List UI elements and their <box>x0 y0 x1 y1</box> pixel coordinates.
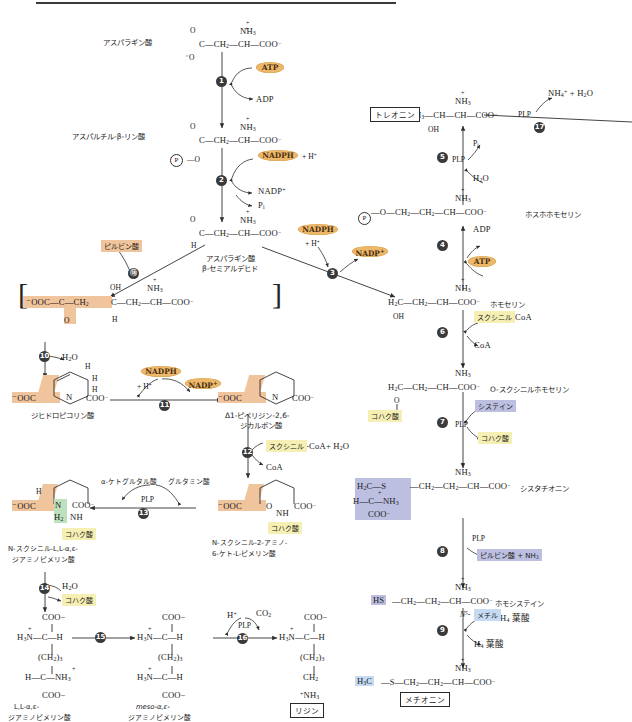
step-7[interactable]: 7 <box>437 417 448 428</box>
cofactor-adp-4: ADP <box>473 224 491 234</box>
label-osuccinylhomoserine: O-スクシニルホモセリン <box>490 383 569 394</box>
cofactor-nadph-11: NADPH <box>141 366 181 377</box>
homoserine-charge: + <box>461 277 464 283</box>
chip-pyruvate-nh3-8: ピルビン酸 + NH3 <box>477 549 542 561</box>
cystathionine-backbone: —CH2—CH2—CH—COO− <box>410 481 511 491</box>
mesodap-coo-bottom: COO− <box>162 690 186 700</box>
homoserine-oh: OH <box>393 312 404 321</box>
chip-succinate-osucc: コハク酸 <box>368 410 402 422</box>
homoserine-backbone: H2C—CH2—CH—COO− <box>388 297 480 307</box>
step-13[interactable]: 13 <box>138 508 149 519</box>
asppho-o-top: O <box>190 122 195 131</box>
label-aspartyl-phosphate: アスパルチル-β-リン酸 <box>72 130 145 141</box>
label-nsk-2: 6-ケト-L-ピメリン酸 <box>212 548 276 558</box>
cofactor-thf-9b: H4 葉酸 <box>474 637 504 649</box>
step-8[interactable]: 8 <box>437 546 448 557</box>
bracket-charge: + <box>153 277 156 283</box>
step-6[interactable]: 6 <box>437 327 448 338</box>
lldap-coo-bottom: COO− <box>42 690 66 700</box>
bracket-right-frag: C—CH2—CH—COO− <box>111 297 193 307</box>
chip-cysteine-7: システイン <box>475 400 516 412</box>
bracket-oxo: O <box>64 316 69 325</box>
cystathionine-frag3: COO− <box>368 509 390 519</box>
phosphate-circle-2: P <box>358 206 371 225</box>
label-cystathionine: シスタチオニン <box>520 482 569 493</box>
step-14[interactable]: 14 <box>39 583 50 594</box>
cofactor-nadph-2: NADPH <box>258 150 298 161</box>
label-dihydrodipicolinate: ジヒドロピコリン酸 <box>31 409 94 420</box>
cofactor-coa-12: CoA <box>266 462 283 472</box>
step-2[interactable]: 2 <box>216 175 227 186</box>
label-aspartate: アスパラギン酸 <box>103 36 152 47</box>
step-3[interactable]: 3 <box>327 268 338 279</box>
mesodap-coo-top: COO− <box>162 612 186 622</box>
step-10[interactable]: 10 <box>39 351 50 362</box>
lldap-alpha: H3N—C—H <box>17 632 63 642</box>
cofactor-glutamate-13: グルタミン酸 <box>168 476 210 486</box>
bracket-left-frag: ⁻OOC—C—CH2 <box>26 297 89 307</box>
cofactor-adp-1: ADP <box>256 94 274 104</box>
cofactor-n5-prefix: N5- <box>460 610 470 619</box>
cofactor-coa-6: CoA <box>474 340 491 350</box>
label-phosphohomoserine: ホスホホモセリン <box>525 208 581 219</box>
chip-succinyl-6: スクシニル <box>474 311 515 323</box>
lysine-charge-1: + <box>290 626 293 632</box>
nsd-n: N <box>55 500 61 510</box>
cofactor-nh4-h2o-17: NH4+ + H2O <box>548 88 593 98</box>
cofactor-hplus-11: + H+ <box>137 382 152 391</box>
cystathionine-nh3: NH3 <box>455 467 471 477</box>
lysine-ch2x3: (CH2)3 <box>300 652 325 662</box>
step-12[interactable]: 12 <box>242 447 253 458</box>
step-16[interactable]: 16 <box>237 633 248 644</box>
cofactor-h2o-10: H2O <box>62 352 78 362</box>
lldap-charge-2: + <box>72 666 75 672</box>
phosphohomoserine-nh3: NH3 <box>455 193 471 203</box>
asppho-backbone: C—CH2—CH—COO− <box>199 135 281 145</box>
bracket-nh3: NH3 <box>147 283 163 293</box>
label-threonine: トレオニン <box>370 107 420 122</box>
cofactor-h2o-14: H2O <box>62 581 78 591</box>
top-rule <box>36 2 396 4</box>
homocysteine-backbone: —CH2—CH2—CH—COO− <box>392 596 493 606</box>
cofactor-hplus-2: + H+ <box>302 152 317 161</box>
semialdehyde-o: O <box>190 215 195 224</box>
step-18[interactable]: ⑱ <box>128 268 139 279</box>
step-4[interactable]: 4 <box>437 240 448 251</box>
step-9[interactable]: 9 <box>437 625 448 636</box>
label-lysine: リジン <box>290 703 324 718</box>
cofactor-atp-4: ATP <box>468 256 496 267</box>
lldap-coo-top: COO− <box>42 612 66 622</box>
cofactor-h2o-5: H2O <box>473 173 489 183</box>
threonine-nh3: NH3 <box>455 96 471 106</box>
step-11[interactable]: 11 <box>159 400 170 411</box>
nsd-coo: COO− <box>72 500 94 510</box>
cofactor-plp-13: PLP <box>141 495 154 504</box>
lldap-epsilon: H—C—NH3 <box>25 672 71 682</box>
cofactor-plp-17: PLP <box>518 110 531 119</box>
nsd-h: H <box>36 487 41 496</box>
nsd-ooc: ⁻OOC <box>12 501 36 511</box>
osucchomoserine-nh3: NH3 <box>455 368 471 378</box>
step-17[interactable]: 17 <box>534 122 545 133</box>
step-1[interactable]: 1 <box>216 76 227 87</box>
nsk-coo: COO− <box>294 501 316 511</box>
phosphate-circle-1: P —O <box>170 148 200 167</box>
cofactor-co2-16: CO2 <box>256 608 271 618</box>
step-15[interactable]: 15 <box>95 632 106 643</box>
methionine-charge: + <box>461 657 464 663</box>
methionine-backbone: —S—CH2—CH2—CH—COO− <box>381 677 495 687</box>
homocysteine-charge: + <box>461 576 464 582</box>
dhdp-h3: H <box>92 385 97 394</box>
aspartate-backbone: C—CH2—CH—COO− <box>199 39 281 49</box>
step-5[interactable]: 5 <box>437 152 448 163</box>
dhdp-ooc: ⁻OOC <box>12 393 36 403</box>
dhdp-n: N <box>66 392 72 402</box>
label-homoserine: ホモセリン <box>490 298 525 309</box>
chip-succinyl-12: スクシニル <box>266 440 307 452</box>
cofactor-pi-2: Pi <box>258 200 265 210</box>
lysine-nh3: +NH3 <box>300 690 319 700</box>
label-homocysteine: ホモシステイン <box>495 597 544 608</box>
bracket-close: ] <box>272 277 282 311</box>
dhdp-h1: H <box>85 362 90 371</box>
bracket-h: H <box>112 315 117 324</box>
